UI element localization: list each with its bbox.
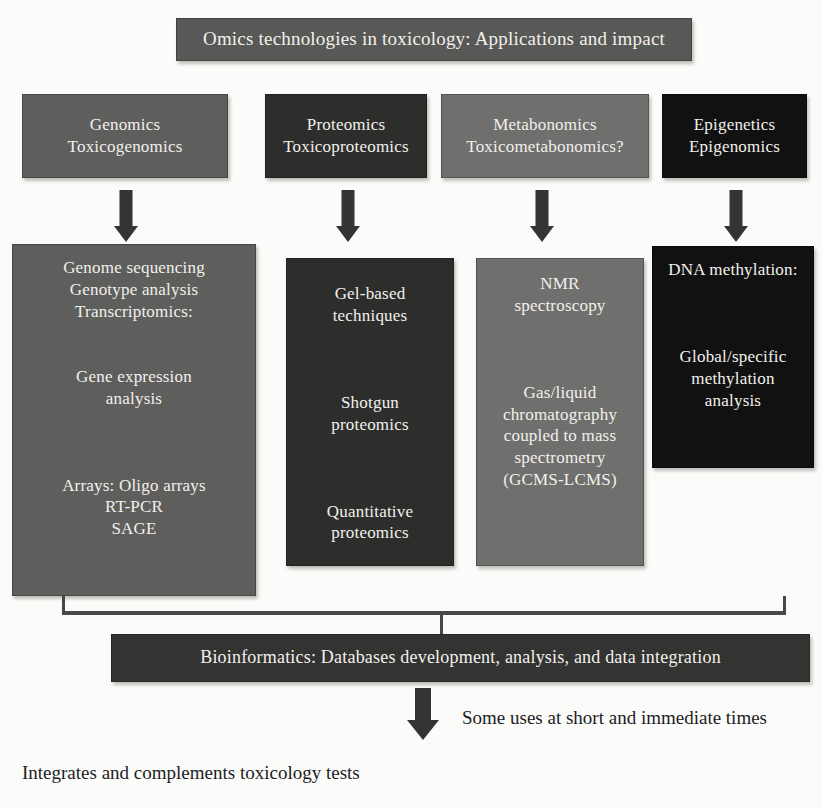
arrow-head — [407, 720, 439, 740]
bracket-horizontal-line — [62, 611, 786, 615]
domain-box-epigenetics[interactable]: Epigenetics Epigenomics — [662, 94, 807, 178]
domain-box-proteomics[interactable]: Proteomics Toxicoproteomics — [265, 94, 427, 178]
bioinformatics-bar-label: Bioinformatics: Databases development, a… — [112, 646, 809, 669]
arrow-shaft — [120, 190, 133, 228]
domain-box-metabonomics-label: Metabonomics Toxicometabonomics? — [442, 114, 648, 158]
technique-box-metabonomics[interactable]: NMR spectroscopy Gas/liquid chromatograp… — [476, 258, 644, 566]
technique-box-proteomics[interactable]: Gel-based techniques Shotgun proteomics … — [286, 258, 454, 566]
arrow-shaft — [730, 190, 743, 228]
technique-box-genomics-label: Genome sequencing Genotype analysis Tran… — [13, 257, 255, 540]
technique-box-proteomics-label: Gel-based techniques Shotgun proteomics … — [287, 283, 453, 544]
diagram-canvas: Omics technologies in toxicology: Applic… — [0, 0, 822, 809]
technique-box-epigenetics[interactable]: DNA methylation: Global/specific methyla… — [652, 246, 814, 468]
arrow-bioinformatics-down — [400, 688, 446, 740]
arrow-shaft — [342, 190, 355, 228]
domain-box-genomics[interactable]: Genomics Toxicogenomics — [22, 94, 228, 178]
arrow-shaft — [415, 688, 431, 722]
domain-box-metabonomics[interactable]: Metabonomics Toxicometabonomics? — [441, 94, 649, 178]
bioinformatics-bar[interactable]: Bioinformatics: Databases development, a… — [111, 634, 810, 682]
technique-box-metabonomics-label: NMR spectroscopy Gas/liquid chromatograp… — [477, 273, 643, 491]
arrow-shaft — [536, 190, 549, 228]
domain-box-genomics-label: Genomics Toxicogenomics — [23, 114, 227, 158]
annotation-short-term: Some uses at short and immediate times — [462, 707, 767, 729]
domain-box-proteomics-label: Proteomics Toxicoproteomics — [266, 114, 426, 158]
bracket-stub-down — [440, 615, 443, 635]
technique-box-epigenetics-label: DNA methylation: Global/specific methyla… — [653, 259, 813, 411]
arrow-epigenetics — [718, 190, 754, 242]
arrow-metabonomics — [524, 190, 560, 242]
arrow-head — [114, 226, 138, 242]
arrow-genomics — [108, 190, 144, 242]
technique-box-genomics[interactable]: Genome sequencing Genotype analysis Tran… — [12, 244, 256, 596]
title-bar-label: Omics technologies in toxicology: Applic… — [177, 27, 691, 51]
arrow-head — [336, 226, 360, 242]
annotation-integrates: Integrates and complements toxicology te… — [22, 762, 360, 784]
arrow-proteomics — [330, 190, 366, 242]
bracket-connector — [62, 596, 786, 615]
arrow-head — [724, 226, 748, 242]
arrow-head — [530, 226, 554, 242]
domain-box-epigenetics-label: Epigenetics Epigenomics — [663, 114, 806, 158]
title-bar: Omics technologies in toxicology: Applic… — [176, 18, 692, 61]
